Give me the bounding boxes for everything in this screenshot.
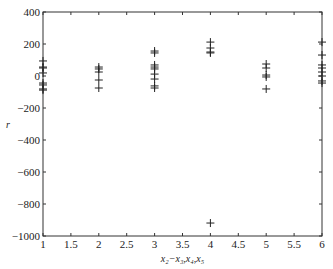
plot-frame bbox=[43, 12, 322, 236]
data-point bbox=[206, 49, 214, 57]
data-points bbox=[39, 38, 326, 227]
x-tick-label: 4 bbox=[208, 238, 214, 250]
x-tick-label: 6 bbox=[319, 238, 325, 250]
data-point bbox=[206, 219, 214, 227]
x-tick-label: 3 bbox=[152, 238, 158, 250]
y-tick-label: −1000 bbox=[12, 230, 41, 242]
x-tick-label: 1 bbox=[40, 238, 46, 250]
data-point bbox=[151, 75, 159, 83]
data-point bbox=[318, 38, 326, 46]
data-point bbox=[95, 76, 103, 84]
y-tick-label: −600 bbox=[17, 166, 40, 178]
y-tick-label: 0 bbox=[35, 70, 41, 82]
x-tick-label: 5 bbox=[263, 238, 269, 250]
data-point bbox=[262, 64, 270, 72]
x-tick-label: 2 bbox=[96, 238, 102, 250]
x-tick-label: 3.5 bbox=[176, 238, 190, 250]
data-point bbox=[262, 85, 270, 93]
scatter-chart: 11.522.533.544.555.56 4002000−200−400−60… bbox=[0, 0, 333, 269]
data-point bbox=[318, 51, 326, 59]
y-tick-label: −800 bbox=[17, 198, 40, 210]
x-axis-label: x₂−x₃,x₄,x₅ bbox=[160, 253, 205, 264]
data-point bbox=[151, 49, 159, 57]
y-axis: 4002000−200−400−600−800−1000 bbox=[12, 6, 322, 242]
y-tick-label: 200 bbox=[24, 38, 41, 50]
y-tick-label: 400 bbox=[24, 6, 41, 18]
x-tick-label: 4.5 bbox=[231, 238, 245, 250]
data-point bbox=[262, 73, 270, 81]
data-point bbox=[318, 79, 326, 87]
x-axis: 11.522.533.544.555.56 bbox=[40, 12, 325, 250]
x-tick-label: 5.5 bbox=[287, 238, 301, 250]
x-tick-label: 2.5 bbox=[120, 238, 134, 250]
data-point bbox=[95, 84, 103, 92]
x-tick-label: 1.5 bbox=[64, 238, 78, 250]
data-point bbox=[39, 86, 47, 94]
data-point bbox=[151, 84, 159, 92]
y-tick-label: −400 bbox=[17, 134, 40, 146]
y-tick-label: −200 bbox=[17, 102, 40, 114]
y-axis-label: r bbox=[6, 119, 10, 130]
